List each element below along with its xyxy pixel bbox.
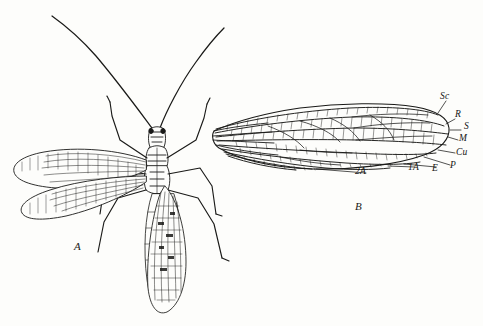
- vein-label-1a: 1A: [408, 162, 419, 172]
- vein-label-sc: Sc: [440, 91, 449, 101]
- vein-label-p: P: [450, 160, 456, 170]
- vein-label-m: M: [459, 133, 467, 143]
- vein-label-s: S: [464, 121, 469, 131]
- vein-label-2a: 2A: [355, 166, 366, 176]
- vein-label-cu: Cu: [456, 147, 468, 157]
- vein-label-r: R: [455, 109, 461, 119]
- figure-label-a: A: [74, 240, 81, 252]
- figure-label-b: B: [355, 200, 362, 212]
- vein-label-e: E: [432, 163, 438, 173]
